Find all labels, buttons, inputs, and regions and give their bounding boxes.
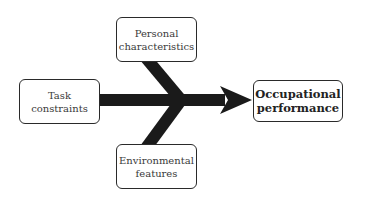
branch-arrow-environment bbox=[146, 99, 182, 148]
box-label-line: Personal bbox=[119, 27, 194, 40]
box-label-line: Occupational bbox=[255, 87, 340, 101]
box-label-line: Task bbox=[31, 89, 88, 102]
occupational-performance-diagram: Personal characteristics Task constraint… bbox=[0, 0, 365, 203]
personal-characteristics-box: Personal characteristics bbox=[116, 17, 197, 62]
box-label-line: features bbox=[119, 167, 194, 180]
box-label-line: Environmental bbox=[119, 154, 194, 167]
box-label-line: characteristics bbox=[119, 40, 194, 53]
box-label-line: constraints bbox=[31, 102, 88, 115]
environmental-features-box: Environmental features bbox=[116, 144, 197, 189]
box-label-line: performance bbox=[255, 101, 340, 115]
occupational-performance-box: Occupational performance bbox=[253, 80, 343, 122]
task-constraints-box: Task constraints bbox=[19, 79, 100, 124]
main-arrow-shaft bbox=[99, 94, 225, 106]
